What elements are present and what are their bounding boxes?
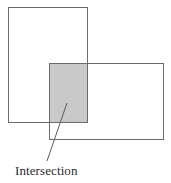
intersection-label: Intersection — [15, 163, 78, 178]
set-intersection-diagram — [0, 0, 171, 183]
intersection-region — [50, 64, 88, 123]
